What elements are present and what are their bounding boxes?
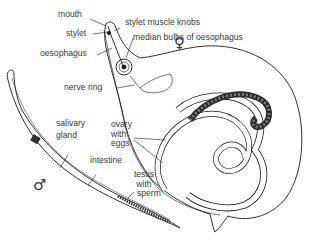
male-symbol-icon: ♂ bbox=[33, 178, 46, 193]
label-oesophagus: oesophagus bbox=[40, 49, 87, 59]
label-testis-with-sperm: testis with sperm bbox=[127, 170, 161, 199]
label-nerve-ring: nerve ring bbox=[64, 83, 102, 93]
label-salivary-line2: gland bbox=[56, 131, 85, 141]
label-ovary-with-eggs: ovary with eggs bbox=[111, 120, 132, 149]
ovary-coil bbox=[158, 114, 249, 190]
label-mouth: mouth bbox=[58, 10, 82, 20]
label-salivary-line1: salivary bbox=[56, 119, 85, 129]
label-median-bulbs: median bulbs of oesophagus bbox=[133, 33, 243, 43]
label-ovary-line3: eggs bbox=[111, 139, 132, 149]
male-body-outline bbox=[7, 70, 180, 228]
label-intestine: intestine bbox=[90, 156, 122, 166]
label-stylet: stylet bbox=[66, 29, 86, 39]
label-salivary-gland: salivary gland bbox=[56, 119, 85, 140]
label-testis-line3: sperm bbox=[137, 189, 161, 199]
female-symbol-icon: ♀ bbox=[174, 36, 185, 51]
label-stylet-muscle-knobs: stylet muscle knobs bbox=[125, 18, 200, 28]
